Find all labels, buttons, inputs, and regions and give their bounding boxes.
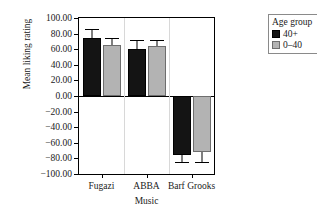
error-bar-stem [136, 40, 137, 49]
legend-label-40-plus: 40+ [283, 29, 298, 39]
y-axis-tick-label: −20.00 [45, 107, 72, 117]
legend-swatch-icon-light [272, 41, 280, 49]
y-axis-tick-label: 100.00 [46, 13, 72, 23]
x-axis-tick [102, 174, 103, 178]
error-bar [193, 152, 211, 162]
y-axis-tick-label: 60.00 [51, 44, 72, 54]
plot-inner: 100.0080.0060.0040.0020.000.00−20.00−40.… [79, 18, 214, 174]
error-bar-stem [91, 29, 92, 38]
y-axis-tick [74, 18, 79, 19]
bar-fugazi-0-40 [103, 45, 121, 96]
error-bar-cap [105, 38, 119, 39]
x-axis-title: Music [78, 196, 215, 206]
error-bar [148, 40, 166, 46]
error-bar [128, 40, 146, 49]
legend-swatch-icon-dark [272, 30, 280, 38]
y-axis-tick-label: 40.00 [51, 60, 72, 70]
x-axis-tick-label: Fugazi [89, 181, 115, 191]
y-axis-tick [74, 143, 79, 144]
y-axis-tick [74, 174, 79, 175]
plot-area: 100.0080.0060.0040.0020.000.00−20.00−40.… [78, 17, 215, 175]
x-axis-tick [147, 174, 148, 178]
y-axis-tick [74, 34, 79, 35]
error-bar-cap [175, 162, 189, 163]
category-separator [169, 18, 170, 174]
y-axis-title: Mean liking rating [22, 0, 32, 124]
x-axis-tick-label: Barf Grooks [168, 181, 215, 191]
y-axis-tick [74, 112, 79, 113]
y-axis-tick [74, 49, 79, 50]
error-bar-cap [85, 29, 99, 30]
error-bar [103, 38, 121, 45]
error-bar-stem [181, 155, 182, 162]
bar-chart: Mean liking rating 100.0080.0060.0040.00… [0, 0, 317, 222]
bar-abba-0-40 [148, 46, 166, 96]
legend-item-0-40: 0–40 [272, 40, 317, 50]
error-bar [173, 155, 191, 162]
y-axis-tick [74, 80, 79, 81]
category-separator [124, 18, 125, 174]
y-axis-tick-label: −40.00 [45, 122, 72, 132]
y-axis-tick [74, 65, 79, 66]
y-axis-tick-label: 80.00 [51, 29, 72, 39]
error-bar-stem [201, 152, 202, 162]
x-axis-tick-label: ABBA [133, 181, 159, 191]
bar-abba-40-plus [128, 49, 146, 96]
error-bar-cap [150, 40, 164, 41]
y-axis-tick [74, 158, 79, 159]
y-axis-tick-label: −80.00 [45, 153, 72, 163]
error-bar-cap [130, 40, 144, 41]
x-axis-tick [192, 174, 193, 178]
error-bar-stem [111, 38, 112, 45]
y-axis-tick-label: −60.00 [45, 138, 72, 148]
bar-barf-grooks-40-plus [173, 96, 191, 155]
error-bar-cap [195, 162, 209, 163]
y-axis-tick-label: 20.00 [51, 75, 72, 85]
bar-barf-grooks-0-40 [193, 96, 211, 152]
y-axis-tick [74, 127, 79, 128]
legend-item-40-plus: 40+ [272, 29, 317, 39]
bar-fugazi-40-plus [83, 38, 101, 96]
y-axis-tick-label: 0.00 [55, 91, 72, 101]
legend: Age group 40+ 0–40 [268, 14, 317, 54]
legend-label-0-40: 0–40 [283, 40, 302, 50]
y-axis-tick-label: −100.00 [41, 169, 72, 179]
legend-title: Age group [272, 17, 317, 28]
error-bar [83, 29, 101, 38]
